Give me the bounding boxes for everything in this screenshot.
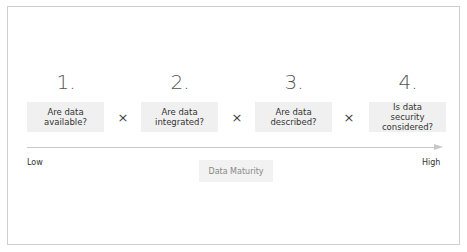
step-3-number: 3.	[255, 70, 333, 94]
step-2-box: Are data integrated?	[141, 102, 218, 132]
step-2-number: 2.	[141, 70, 219, 94]
multiply-icon: ×	[343, 110, 355, 125]
step-3-question: Are data described?	[269, 107, 319, 127]
multiply-icon: ×	[117, 110, 129, 125]
maturity-axis-line	[27, 147, 437, 148]
step-1-number: 1.	[27, 70, 105, 94]
step-3-box: Are data described?	[255, 102, 332, 132]
axis-high-label: High	[422, 158, 440, 167]
axis-title: Data Maturity	[199, 160, 273, 182]
step-1-box: Are data available?	[27, 102, 104, 132]
step-2-question: Are data integrated?	[155, 107, 205, 127]
axis-low-label: Low	[27, 158, 43, 167]
step-4-box: Is data security considered?	[369, 102, 446, 132]
step-1-question: Are data available?	[41, 107, 91, 127]
step-4-question: Is data security considered?	[376, 102, 440, 132]
step-4-number: 4.	[369, 70, 447, 94]
multiply-icon: ×	[231, 110, 243, 125]
arrow-right-icon	[434, 144, 443, 150]
